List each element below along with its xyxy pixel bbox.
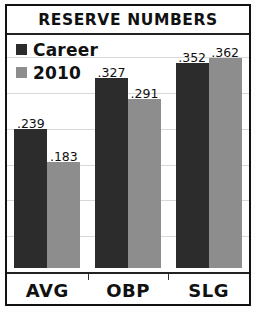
bar-slg-career — [176, 63, 209, 268]
legend-item-career: Career — [16, 39, 98, 60]
legend-swatch-icon-career — [16, 44, 27, 55]
plot-area: Career 2010 .239.183.327.291.352.362 AVG… — [7, 35, 249, 304]
page-title: RESERVE NUMBERS — [38, 11, 218, 29]
bar-avg-2010 — [47, 162, 80, 268]
bar-obp-2010 — [128, 99, 161, 268]
category-axis: AVGOBPSLG — [7, 274, 249, 310]
chart-title-band: RESERVE NUMBERS — [7, 6, 249, 33]
legend-swatch-icon-2010 — [16, 67, 27, 78]
category-label-slg: SLG — [168, 280, 249, 301]
category-label-obp: OBP — [88, 280, 169, 301]
bar-value-label-obp-2010: .291 — [123, 86, 166, 101]
chart-frame: RESERVE NUMBERS Career 2010 .239.183.327… — [5, 4, 251, 306]
bar-obp-career — [95, 78, 128, 268]
legend-label-2010: 2010 — [33, 63, 81, 83]
bar-slg-2010 — [209, 58, 242, 268]
legend-item-2010: 2010 — [16, 62, 98, 83]
chart-legend: Career 2010 — [16, 39, 98, 85]
category-label-avg: AVG — [7, 280, 88, 301]
bar-value-label-avg-2010: .183 — [42, 149, 85, 164]
bar-value-label-avg-career: .239 — [9, 116, 52, 131]
chart-figure: RESERVE NUMBERS Career 2010 .239.183.327… — [0, 0, 256, 312]
bar-value-label-slg-2010: .362 — [204, 45, 247, 60]
legend-label-career: Career — [33, 40, 98, 60]
